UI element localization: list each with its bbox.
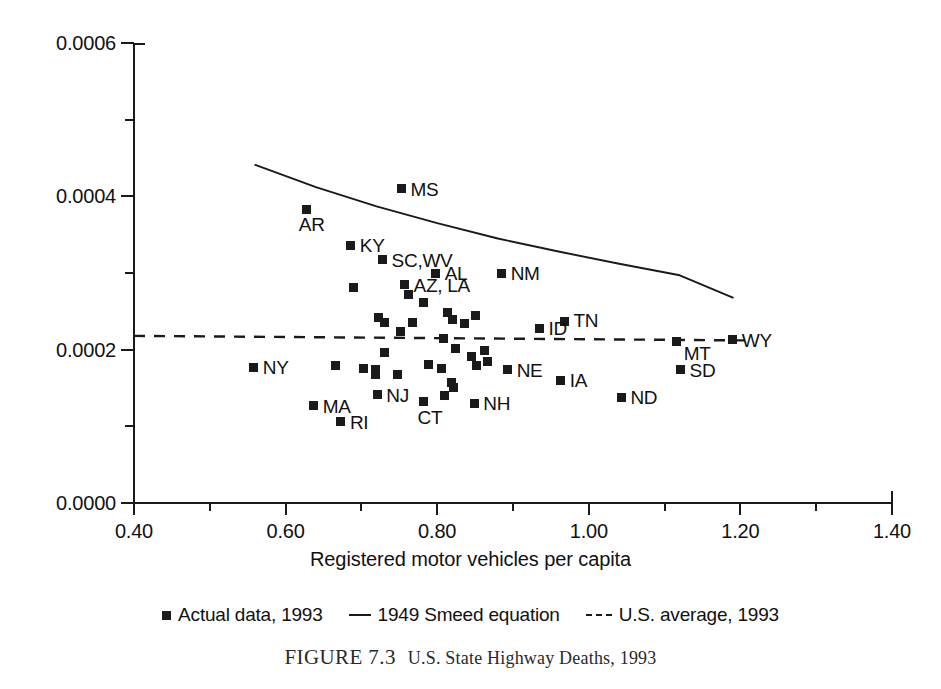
data-point-marker: [451, 344, 460, 353]
data-point-marker: [472, 361, 481, 370]
data-point-label: NJ: [386, 386, 409, 405]
data-point-label: SD: [690, 361, 716, 380]
data-point-marker: [419, 298, 428, 307]
y-tick-label: 0.0004: [0, 186, 116, 206]
data-point-marker: [378, 255, 387, 264]
y-tick-minor: [125, 119, 134, 121]
x-tick-minor: [815, 503, 817, 511]
data-point-label: NM: [511, 264, 540, 283]
data-point-marker: [672, 337, 681, 346]
data-point-marker: [380, 348, 389, 357]
x-tick-minor: [512, 503, 514, 511]
data-point-marker: [396, 327, 405, 336]
data-point-marker: [404, 290, 413, 299]
y-tick-major: [121, 349, 134, 351]
data-point-marker: [359, 364, 368, 373]
legend-item-label: Actual data, 1993: [178, 604, 323, 626]
data-point-label: AR: [299, 215, 325, 234]
y-tick-label: 0.0006: [0, 33, 116, 53]
figure-caption-number: FIGURE 7.3: [284, 645, 395, 669]
y-tick-label: 0.0000: [0, 493, 116, 513]
data-point-marker: [449, 383, 458, 392]
data-point-marker: [302, 205, 311, 214]
data-point-label: MS: [411, 180, 439, 199]
data-point-label: KY: [360, 236, 385, 255]
x-tick-label: 0.60: [246, 521, 326, 541]
data-point-marker: [728, 335, 737, 344]
data-point-marker: [400, 280, 409, 289]
data-point-marker: [556, 376, 565, 385]
data-point-marker: [617, 393, 626, 402]
legend-item-label: U.S. average, 1993: [619, 604, 779, 626]
data-point-label: IA: [570, 371, 587, 390]
data-point-marker: [371, 370, 380, 379]
data-point-label: WY: [742, 331, 772, 350]
data-point-marker: [424, 360, 433, 369]
data-point-marker: [439, 334, 448, 343]
x-axis-title: Registered motor vehicles per capita: [0, 548, 941, 571]
y-tick-minor: [125, 425, 134, 427]
y-tick-minor: [125, 272, 134, 274]
x-tick-major: [588, 503, 590, 515]
data-point-marker: [470, 399, 479, 408]
data-point-marker: [373, 390, 382, 399]
data-point-marker: [483, 357, 492, 366]
data-point-marker: [309, 401, 318, 410]
y-tick-major: [121, 195, 134, 197]
data-point-marker: [471, 311, 480, 320]
legend-marker-icon: [162, 611, 171, 620]
data-point-label: NH: [483, 394, 510, 413]
figure-caption: FIGURE 7.3U.S. State Highway Deaths, 199…: [0, 645, 941, 670]
data-point-label: AZ, LA: [414, 276, 470, 295]
data-point-marker: [349, 283, 358, 292]
data-point-marker: [380, 318, 389, 327]
data-point-label: RI: [350, 413, 368, 432]
data-point-marker: [336, 417, 345, 426]
data-point-label: MA: [323, 397, 351, 416]
scatter-layer: MSARKYSC,WVALNMAZ, LATNIDMTWYNYNESDIANJN…: [134, 43, 892, 503]
legend-item[interactable]: 1949 Smeed equation: [349, 604, 560, 626]
data-point-marker: [419, 397, 428, 406]
data-point-marker: [440, 391, 449, 400]
data-point-marker: [497, 269, 506, 278]
legend-item[interactable]: U.S. average, 1993: [586, 604, 779, 626]
data-point-marker: [503, 365, 512, 374]
figure-caption-text: U.S. State Highway Deaths, 1993: [408, 648, 657, 668]
x-tick-major: [436, 503, 438, 515]
data-point-marker: [460, 319, 469, 328]
x-tick-label: 1.20: [700, 521, 780, 541]
x-tick-major: [285, 503, 287, 515]
data-point-marker: [467, 352, 476, 361]
legend-solid-line-icon: [349, 614, 371, 616]
data-point-label: SC,WV: [392, 251, 453, 270]
data-point-marker: [480, 346, 489, 355]
data-point-marker: [393, 370, 402, 379]
data-point-label: ND: [630, 388, 657, 407]
x-tick-major: [891, 503, 893, 515]
data-point-marker: [535, 324, 544, 333]
data-point-marker: [676, 365, 685, 374]
data-point-marker: [397, 184, 406, 193]
data-point-label: CT: [418, 408, 443, 427]
legend-dashed-line-icon: [586, 614, 612, 616]
legend-item-label: 1949 Smeed equation: [378, 604, 560, 626]
x-tick-major: [739, 503, 741, 515]
x-tick-minor: [360, 503, 362, 511]
figure-container: Annual highway deaths per vehicle Regist…: [0, 0, 941, 689]
chart-legend: Actual data, 19931949 Smeed equationU.S.…: [0, 604, 941, 626]
x-tick-major: [133, 503, 135, 515]
legend-item[interactable]: Actual data, 1993: [162, 604, 323, 626]
x-tick-label: 1.00: [549, 521, 629, 541]
data-point-marker: [437, 364, 446, 373]
x-tick-minor: [209, 503, 211, 511]
x-tick-label: 0.80: [397, 521, 477, 541]
data-point-marker: [331, 361, 340, 370]
data-point-marker: [249, 363, 258, 372]
data-point-label: ID: [549, 319, 567, 338]
y-tick-label: 0.0002: [0, 340, 116, 360]
data-point-label: TN: [574, 311, 599, 330]
data-point-marker: [346, 241, 355, 250]
x-tick-label: 0.40: [94, 521, 174, 541]
data-point-marker: [408, 318, 417, 327]
data-point-marker: [448, 315, 457, 324]
